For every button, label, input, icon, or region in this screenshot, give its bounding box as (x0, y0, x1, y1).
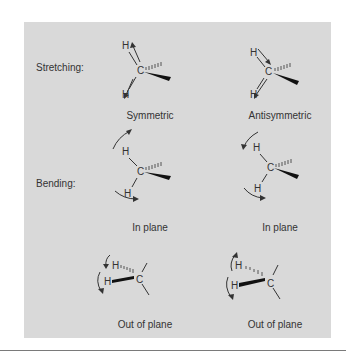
caption-out-of-plane-1: Out of plane (90, 319, 200, 330)
caption-out-of-plane-2: Out of plane (220, 319, 330, 330)
atom-h-top: H (235, 260, 242, 271)
hashed-bond-icon (275, 63, 290, 71)
atom-h-bottom: H (104, 276, 111, 287)
symmetric-stretch-molecule: H C H (110, 35, 190, 105)
divider-line (0, 350, 346, 351)
caption-symmetric: Symmetric (95, 110, 205, 121)
caption-in-plane-2: In plane (225, 222, 335, 233)
out-of-plane-bend-molecule-2: H C H (222, 255, 302, 320)
hashed-bond-icon (146, 62, 161, 70)
row-label-bending: Bending: (36, 178, 75, 189)
caption-in-plane-1: In plane (95, 222, 205, 233)
solid-wedge-bond-icon (239, 278, 265, 287)
atom-h-bottom: H (254, 183, 261, 194)
atom-h-top: H (253, 142, 260, 153)
row-label-stretching: Stretching: (36, 62, 84, 73)
solid-wedge-bond-icon (273, 73, 299, 85)
atom-h-top: H (122, 146, 129, 157)
atom-c: C (265, 66, 272, 77)
hashed-bond-icon (146, 162, 161, 170)
atom-h-bottom: H (231, 280, 238, 291)
atom-c: C (267, 278, 274, 289)
caption-antisymmetric: Antisymmetric (225, 110, 335, 121)
atom-c: C (267, 162, 274, 173)
atom-h-top: H (122, 40, 129, 51)
out-of-plane-bend-molecule-1: H C H (92, 255, 172, 315)
atom-h-top: H (112, 260, 119, 271)
in-plane-bend-molecule-2: H C H (241, 135, 321, 210)
atom-c: C (137, 65, 144, 76)
hashed-bond-icon (246, 266, 262, 276)
hashed-bond-icon (121, 265, 133, 273)
hashed-bond-icon (276, 159, 291, 167)
solid-wedge-bond-icon (274, 168, 299, 179)
solid-wedge-bond-icon (112, 276, 134, 283)
solid-wedge-bond-icon (144, 72, 171, 81)
antisymmetric-stretch-molecule: H C H (241, 35, 321, 105)
in-plane-bend-molecule-1: H C H (110, 135, 190, 210)
solid-wedge-bond-icon (144, 172, 171, 180)
atom-c: C (137, 166, 144, 177)
atom-h-top: H (250, 47, 257, 58)
atom-c: C (136, 274, 143, 285)
